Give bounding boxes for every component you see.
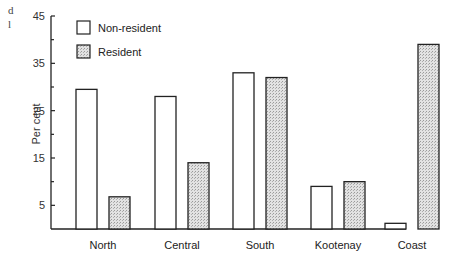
bar-non-resident-north <box>76 89 97 229</box>
y-tick-label: 15 <box>33 152 45 164</box>
bar-non-resident-south <box>233 73 254 229</box>
x-category-label: Kootenay <box>315 239 362 251</box>
legend-swatch <box>77 45 90 58</box>
x-category-label: North <box>90 239 117 251</box>
bar-resident-south <box>266 78 287 229</box>
x-category-label: Coast <box>398 239 427 251</box>
bar-resident-coast <box>418 44 439 229</box>
legend-label: Resident <box>98 46 141 58</box>
bar-non-resident-central <box>155 96 176 229</box>
bar-chart: 515253545Per cent NorthCentralSouthKoote… <box>0 0 462 263</box>
y-axis-label: Per cent <box>30 104 42 145</box>
y-tick-label: 45 <box>33 10 45 22</box>
x-category-label: Central <box>164 239 199 251</box>
legend: Non-residentResident <box>77 21 161 58</box>
bar-resident-kootenay <box>344 182 365 229</box>
bar-resident-central <box>188 163 209 229</box>
x-category-label: South <box>246 239 275 251</box>
bar-non-resident-coast <box>385 223 406 229</box>
bar-non-resident-kootenay <box>311 186 332 229</box>
legend-swatch <box>77 21 90 34</box>
legend-label: Non-resident <box>98 22 161 34</box>
bars: NorthCentralSouthKootenayCoast <box>76 44 439 251</box>
bar-resident-north <box>109 197 130 229</box>
y-tick-label: 5 <box>39 199 45 211</box>
y-tick-label: 35 <box>33 57 45 69</box>
